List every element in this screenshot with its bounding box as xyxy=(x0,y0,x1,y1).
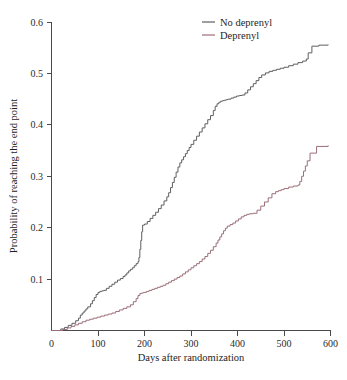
x-tick-label: 200 xyxy=(137,338,152,349)
x-tick-label: 100 xyxy=(91,338,106,349)
x-tick-label: 300 xyxy=(184,338,199,349)
series-line-no-deprenyl xyxy=(52,45,329,331)
chart-legend: No deprenylDeprenyl xyxy=(202,17,272,41)
y-tick-label: 0.5 xyxy=(31,68,44,79)
x-axis-ticks: 0100200300400500600 xyxy=(49,331,338,350)
y-tick-label: 0.2 xyxy=(31,222,44,233)
x-tick-label: 0 xyxy=(49,338,54,349)
legend-label: No deprenyl xyxy=(220,17,272,28)
x-axis-title: Days after randomization xyxy=(138,352,245,363)
series-line-deprenyl xyxy=(52,145,329,330)
x-tick-label: 600 xyxy=(323,338,338,349)
y-tick-label: 0.4 xyxy=(31,119,44,130)
y-axis-title: Probability of reaching the end point xyxy=(8,99,19,253)
x-tick-label: 400 xyxy=(230,338,245,349)
y-tick-label: 0.1 xyxy=(31,274,44,285)
series-group xyxy=(52,45,329,331)
y-tick-label: 0.3 xyxy=(31,171,44,182)
legend-label: Deprenyl xyxy=(220,30,259,41)
y-tick-label: 0.6 xyxy=(31,17,44,28)
x-tick-label: 500 xyxy=(277,338,292,349)
y-axis-ticks: 0.10.20.30.40.50.6 xyxy=(31,17,52,285)
kaplan-meier-plot: 0.10.20.30.40.50.6 0100200300400500600 N… xyxy=(0,0,347,380)
chart-figure: 0.10.20.30.40.50.6 0100200300400500600 N… xyxy=(0,0,347,380)
